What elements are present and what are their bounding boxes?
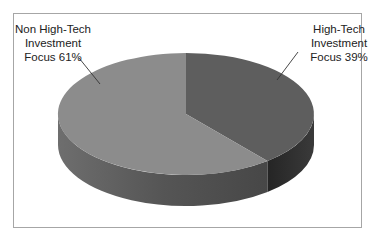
data-label-high-tech: High-Tech Investment Focus 39% [303, 22, 374, 64]
label-line: Focus 39% [303, 50, 374, 64]
label-line: High-Tech [303, 22, 374, 36]
label-line: Focus 61% [14, 50, 92, 64]
leader-line-high-tech [277, 52, 298, 80]
label-line: Non High-Tech [14, 22, 92, 36]
label-line: Investment [14, 36, 92, 50]
label-line: Investment [303, 36, 374, 50]
data-label-non-high-tech: Non High-Tech Investment Focus 61% [14, 22, 92, 64]
